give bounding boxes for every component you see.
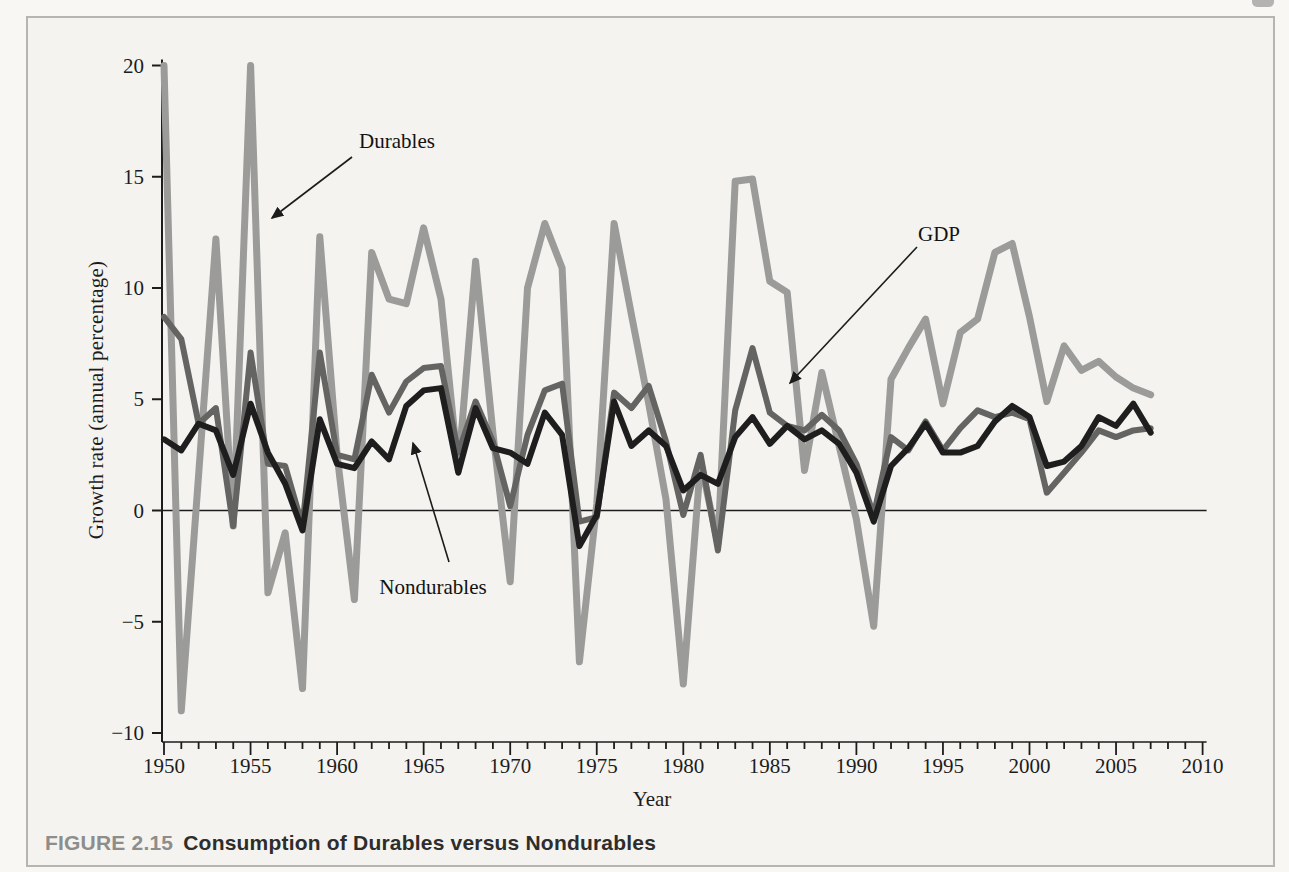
page: 20151050−5−10195019551960196519701975198… [0, 0, 1289, 872]
svg-text:−5: −5 [122, 610, 144, 634]
svg-text:0: 0 [134, 499, 145, 523]
svg-text:1990: 1990 [835, 754, 877, 778]
svg-text:2010: 2010 [1182, 754, 1224, 778]
svg-text:10: 10 [123, 276, 144, 300]
svg-text:1950: 1950 [143, 754, 185, 778]
x-axis-label: Year [633, 787, 672, 812]
svg-text:5: 5 [134, 387, 145, 411]
growth-rate-line-chart: 20151050−5−10195019551960196519701975198… [0, 0, 1289, 872]
figure-caption: FIGURE 2.15Consumption of Durables versu… [45, 831, 656, 855]
svg-text:1955: 1955 [230, 754, 272, 778]
svg-text:1970: 1970 [489, 754, 531, 778]
svg-text:1975: 1975 [576, 754, 618, 778]
svg-text:1960: 1960 [316, 754, 358, 778]
svg-text:20: 20 [123, 54, 144, 78]
svg-text:1965: 1965 [403, 754, 445, 778]
svg-text:2005: 2005 [1095, 754, 1137, 778]
figure-caption-title: Consumption of Durables versus Nondurabl… [183, 831, 656, 854]
series-lines [164, 66, 1151, 711]
series-label-gdp: GDP [918, 222, 960, 247]
y-axis-label: Growth rate (annual percentage) [84, 261, 109, 539]
svg-text:2000: 2000 [1009, 754, 1051, 778]
svg-text:1995: 1995 [922, 754, 964, 778]
tick-labels: 20151050−5−10195019551960196519701975198… [111, 54, 1223, 779]
series-label-durables: Durables [359, 129, 435, 154]
svg-text:−10: −10 [111, 721, 144, 745]
figure-caption-number: FIGURE 2.15 [45, 831, 173, 854]
series-label-nondurables: Nondurables [379, 575, 486, 600]
svg-text:1980: 1980 [662, 754, 704, 778]
svg-text:1985: 1985 [749, 754, 791, 778]
svg-text:15: 15 [123, 165, 144, 189]
line-durables [164, 66, 1151, 711]
